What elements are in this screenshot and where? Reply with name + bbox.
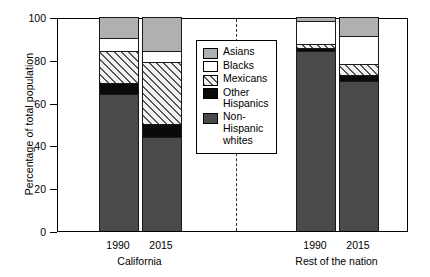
bar-rest-of-nation-1990[interactable] — [296, 17, 336, 231]
chart-legend: AsiansBlacksMexicansOther HispanicsNon- … — [196, 40, 277, 154]
bar-segment-other-hispanics — [142, 124, 182, 137]
y-axis-tick-label: 60 — [34, 98, 46, 110]
legend-item[interactable]: Non- Hispanic whites — [203, 111, 269, 146]
y-axis: 020406080100 — [0, 18, 55, 232]
y-axis-tick — [50, 232, 57, 233]
bar-segment-blacks — [142, 51, 182, 62]
bar-segment-asians — [339, 17, 379, 36]
bar-segment-mexicans — [142, 62, 182, 124]
bar-california-1990[interactable] — [99, 17, 139, 231]
y-axis-tick — [50, 61, 57, 62]
legend-swatch-icon — [203, 88, 218, 99]
legend-item-label: Mexicans — [223, 73, 267, 85]
bar-segment-non-hispanic-whites — [339, 81, 379, 231]
y-axis-tick-label: 40 — [34, 140, 46, 152]
legend-item-label: Blacks — [223, 60, 254, 72]
bar-rest-of-nation-2015[interactable] — [339, 17, 379, 231]
y-axis-tick — [50, 146, 57, 147]
y-axis-tick-label: 100 — [28, 12, 46, 24]
y-axis-tick-label: 0 — [40, 226, 46, 238]
legend-item-label: Non- Hispanic whites — [223, 111, 263, 146]
legend-item[interactable]: Asians — [203, 46, 269, 59]
legend-item-label: Asians — [223, 46, 255, 58]
y-axis-tick — [50, 189, 57, 190]
legend-swatch-icon — [203, 48, 218, 59]
y-axis-tick-label: 20 — [34, 183, 46, 195]
legend-item[interactable]: Mexicans — [203, 73, 269, 86]
bar-segment-blacks — [339, 36, 379, 64]
x-axis-group-label: Rest of the nation — [295, 255, 377, 267]
y-axis-tick-label: 80 — [34, 55, 46, 67]
x-axis-tick-label: 1990 — [106, 239, 129, 251]
y-axis-tick — [50, 18, 57, 19]
legend-swatch-icon — [203, 61, 218, 72]
bar-segment-mexicans — [99, 51, 139, 83]
bar-california-2015[interactable] — [142, 17, 182, 231]
bar-segment-asians — [99, 17, 139, 38]
legend-item-label: Other Hispanics — [223, 87, 269, 111]
x-axis-tick-label: 2015 — [149, 239, 172, 251]
legend-swatch-icon — [203, 75, 218, 86]
x-axis-group-label: California — [117, 255, 161, 267]
legend-item[interactable]: Other Hispanics — [203, 87, 269, 111]
legend-swatch-icon — [203, 113, 218, 124]
bar-segment-other-hispanics — [99, 83, 139, 94]
x-axis-tick-label: 1990 — [303, 239, 326, 251]
bar-segment-non-hispanic-whites — [99, 94, 139, 231]
bar-segment-blacks — [296, 21, 336, 43]
stacked-bar-chart: Percentage of total population 020406080… — [0, 0, 430, 277]
bar-segment-asians — [142, 17, 182, 51]
legend-item[interactable]: Blacks — [203, 60, 269, 73]
y-axis-tick — [50, 104, 57, 105]
x-axis-tick-label: 2015 — [346, 239, 369, 251]
bar-segment-non-hispanic-whites — [296, 51, 336, 231]
bar-segment-mexicans — [339, 64, 379, 75]
bar-segment-blacks — [99, 38, 139, 51]
bar-segment-non-hispanic-whites — [142, 137, 182, 231]
